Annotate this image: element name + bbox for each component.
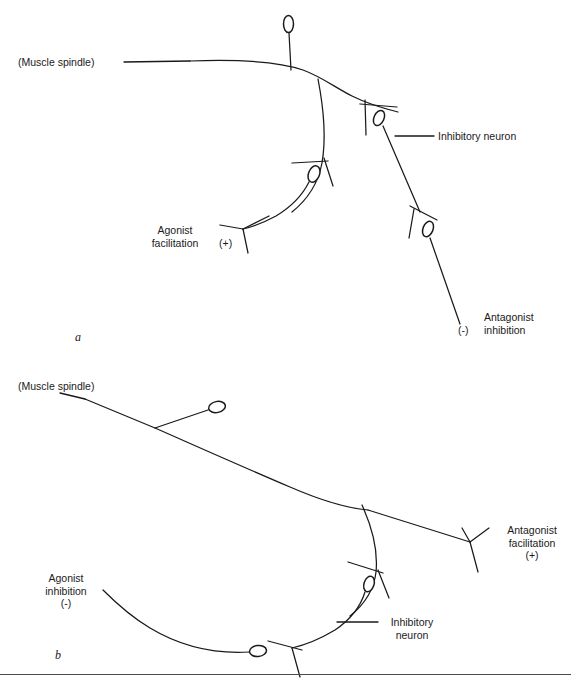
- panel-letter-a: a: [75, 330, 81, 345]
- label-inhibitory-neuron-b-line2: neuron: [380, 629, 444, 642]
- sign-antagonist-inhibition-a: (-): [458, 324, 469, 336]
- afferent-collateral-b: [350, 505, 376, 616]
- panel-a-agonist-motor-neuron: [220, 158, 333, 253]
- sensory-stalk-a: [289, 33, 291, 70]
- antag-terminal-branch1-b: [470, 528, 489, 542]
- agonist-dendrite-right-a: [324, 158, 333, 186]
- panel-b-agonist-motor-neuron: [103, 590, 302, 677]
- antag-terminal-branch2-b: [462, 528, 470, 542]
- sign-antagonist-facilitation-b: (+): [494, 549, 570, 562]
- label-inhibitory-neuron-b-line1: Inhibitory: [380, 616, 444, 629]
- agonist-terminal-branch3-a: [243, 229, 248, 253]
- label-agonist-facilitation-a-line2: facilitation: [136, 237, 214, 250]
- afferent-axon-a: [190, 60, 398, 112]
- label-antagonist-facilitation-b-line2: facilitation: [494, 537, 570, 550]
- agonist-axon-a: [243, 182, 309, 229]
- afferent-collateral-a: [292, 79, 324, 212]
- inhib-dendrite-right-b: [378, 570, 389, 598]
- agonist-terminal-branch2-a: [243, 216, 269, 229]
- label-agonist-inhibition-b-line1: Agonist: [28, 572, 104, 585]
- sensory-soma-a: [284, 16, 294, 33]
- label-agonist-facilitation-a-line1: Agonist: [136, 224, 214, 237]
- label-agonist-facilitation-a: Agonist facilitation: [136, 224, 214, 249]
- sign-agonist-inhibition-b: (-): [28, 597, 104, 610]
- agonist-dendrite-top-a: [292, 161, 328, 163]
- label-inhibitory-neuron-b: Inhibitory neuron: [380, 616, 444, 641]
- inhibitory-soma-b: [362, 575, 376, 593]
- label-inhibitory-neuron-a: Inhibitory neuron: [438, 130, 516, 143]
- antag-dendrite-left-a: [409, 209, 414, 238]
- label-agonist-inhibition-b-line2: inhibition: [28, 585, 104, 598]
- antag-dendrite-top-a: [410, 206, 437, 220]
- panel-a-inhibitory-interneuron: [360, 100, 420, 212]
- sign-agonist-facilitation-a: (+): [219, 237, 232, 249]
- panel-a-sensory-neuron: [284, 16, 294, 71]
- antagonist-axon-a: [430, 238, 460, 324]
- agonist-dendrite-top-b: [268, 641, 302, 650]
- figure-caption: [18, 681, 563, 690]
- panel-letter-b: b: [55, 648, 61, 663]
- inhibitory-axon-a: [383, 126, 420, 212]
- panel-b-inhibitory-interneuron: [292, 562, 389, 648]
- inhib-dendrite-top-b: [348, 562, 383, 573]
- label-antagonist-inhibition-a: Antagonist inhibition: [484, 311, 534, 336]
- label-antagonist-facilitation-b-line1: Antagonist: [494, 524, 570, 537]
- panel-b-sensory-neuron: [155, 400, 226, 428]
- label-agonist-inhibition-b: Agonist inhibition (-): [28, 572, 104, 610]
- inhibitory-axon-b: [292, 592, 365, 648]
- agonist-soma-b: [249, 645, 267, 658]
- muscle-spindle-leader-a: [124, 61, 190, 62]
- sensory-stalk-b: [155, 410, 208, 428]
- agonist-terminal-branch1-a: [220, 225, 243, 229]
- muscle-spindle-leader-b: [60, 393, 85, 399]
- caption-separator-rule: [0, 674, 571, 675]
- panel-b-antagonist-terminal: [462, 528, 489, 572]
- label-antagonist-inhibition-a-line1: Antagonist: [484, 311, 534, 324]
- agonist-axon-b: [103, 590, 249, 652]
- label-muscle-spindle-a: (Muscle spindle): [18, 56, 94, 69]
- label-antagonist-inhibition-a-line2: inhibition: [484, 324, 534, 337]
- panel-a-afferent-fiber: [124, 60, 398, 112]
- panel-b-afferent-fiber: [60, 393, 368, 510]
- label-antagonist-facilitation-b: Antagonist facilitation (+): [494, 524, 570, 562]
- inhibitory-soma-a: [371, 109, 387, 128]
- antag-terminal-branch3-b: [470, 542, 478, 572]
- agonist-terminal-branch-b: [292, 648, 300, 677]
- sensory-soma-b: [208, 400, 227, 414]
- agonist-soma-a: [306, 164, 323, 184]
- inhib-dendrite-top-a: [360, 104, 397, 107]
- afferent-axon-b: [85, 399, 368, 510]
- label-muscle-spindle-b: (Muscle spindle): [18, 380, 94, 393]
- antagonist-soma-a: [420, 220, 435, 239]
- afferent-to-antagonist-b: [368, 510, 470, 542]
- figure-root: (Muscle spindle) Inhibitory neuron Agoni…: [0, 0, 571, 690]
- inhib-dendrite-left-a: [365, 100, 366, 135]
- panel-a-antagonist-motor-neuron: [409, 206, 460, 324]
